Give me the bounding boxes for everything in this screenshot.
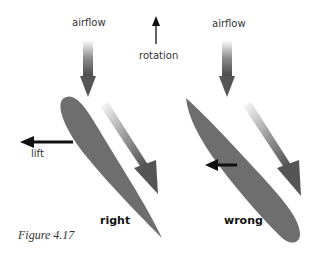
rotation-label: rotation [139,50,178,61]
wrong-label: wrong [224,214,263,227]
figure-caption: Figure 4.17 [18,228,74,243]
diagram-canvas [0,0,317,255]
right-label: right [100,214,130,227]
airflow-label-right: airflow [212,18,246,29]
airflow-arrow-right [219,40,235,97]
rotation-arrow [152,16,160,44]
lift-arrow [20,136,73,148]
figure: airflow airflow rotation lift right wron… [0,0,317,255]
airflow-arrow-left [80,40,96,97]
airflow-label-left: airflow [72,17,106,28]
lift-label: lift [31,148,44,159]
